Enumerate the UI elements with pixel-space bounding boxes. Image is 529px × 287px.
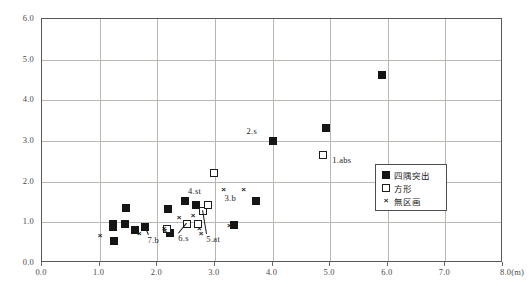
x-tick-mark — [272, 262, 273, 266]
x-tick-mark — [502, 262, 503, 266]
data-point-cross: × — [97, 231, 104, 238]
y-tick-label: 5.0 — [4, 54, 34, 64]
annotation-label: 6.s — [178, 233, 189, 243]
data-point-open-square — [204, 201, 212, 209]
data-point-filled-square — [110, 237, 118, 245]
x-tick-label: 0.0 — [21, 267, 61, 277]
data-point-filled-square — [181, 197, 189, 205]
data-point-filled-square — [109, 223, 117, 231]
y-tick-label: 0.0 — [4, 257, 34, 267]
data-point-cross: × — [240, 185, 247, 192]
data-point-cross: × — [136, 230, 143, 237]
annotation-label: 4.st — [188, 186, 201, 196]
data-point-filled-square — [378, 71, 386, 79]
data-point-cross: × — [189, 212, 196, 219]
data-point-cross: × — [220, 185, 227, 192]
x-tick-mark — [387, 262, 388, 266]
y-tick-label: 1.0 — [4, 216, 34, 226]
gridline-vertical — [157, 19, 158, 261]
annotation-label: 2.s — [247, 126, 258, 136]
gridline-horizontal — [42, 60, 501, 61]
legend-item-label: 四隅突出 — [394, 169, 430, 181]
y-tick-label: 4.0 — [4, 94, 34, 104]
plot-area: ××××××××××× — [41, 18, 502, 262]
annotation-label: 7.b — [148, 235, 160, 245]
legend-item: ×無区画 — [380, 194, 442, 207]
x-tick-mark — [156, 262, 157, 266]
x-tick-label: 3.0 — [194, 267, 234, 277]
data-point-cross: × — [176, 214, 183, 221]
annotation-label: 1.abs — [332, 155, 351, 165]
legend-marker-open-square-icon — [380, 184, 392, 192]
x-tick-label: 1.0 — [79, 267, 119, 277]
gridline-vertical — [100, 19, 101, 261]
x-tick-mark — [444, 262, 445, 266]
data-point-cross: × — [198, 229, 205, 236]
x-tick-label: 7.0 — [424, 267, 464, 277]
legend-item-label: 方形 — [394, 182, 412, 194]
annotation-label: 5.at — [206, 234, 220, 244]
legend-marker-cross-icon: × — [380, 197, 392, 205]
gridline-horizontal — [42, 100, 501, 101]
x-tick-mark — [41, 262, 42, 266]
data-point-filled-square — [164, 205, 172, 213]
legend-item-label: 無区画 — [394, 195, 421, 207]
data-point-filled-square — [269, 137, 277, 145]
data-point-filled-square — [322, 124, 330, 132]
x-tick-label: 2.0 — [136, 267, 176, 277]
y-tick-label: 6.0 — [4, 13, 34, 23]
gridline-vertical — [215, 19, 216, 261]
y-tick-label: 2.0 — [4, 176, 34, 186]
legend-item: 方形 — [380, 181, 442, 194]
data-point-filled-square — [122, 204, 130, 212]
y-tick-label: 3.0 — [4, 135, 34, 145]
x-tick-label: 4.0 — [252, 267, 292, 277]
gridline-vertical — [388, 19, 389, 261]
x-tick-mark — [329, 262, 330, 266]
legend-item: 四隅突出 — [380, 168, 442, 181]
data-point-open-square — [210, 169, 218, 177]
x-tick-label: 8.0(m) — [500, 267, 529, 277]
gridline-vertical — [330, 19, 331, 261]
x-tick-label: 5.0 — [309, 267, 349, 277]
x-tick-mark — [214, 262, 215, 266]
annotation-label: 3.b — [225, 193, 237, 203]
data-point-open-square — [319, 151, 327, 159]
legend: 四隅突出方形×無区画 — [375, 164, 447, 211]
data-point-cross: × — [161, 226, 168, 233]
data-point-filled-square — [121, 220, 129, 228]
legend-marker-filled-square-icon — [380, 171, 392, 179]
data-point-cross: × — [226, 222, 233, 229]
data-point-filled-square — [252, 197, 260, 205]
x-tick-mark — [99, 262, 100, 266]
x-tick-label: 6.0 — [367, 267, 407, 277]
gridline-vertical — [445, 19, 446, 261]
